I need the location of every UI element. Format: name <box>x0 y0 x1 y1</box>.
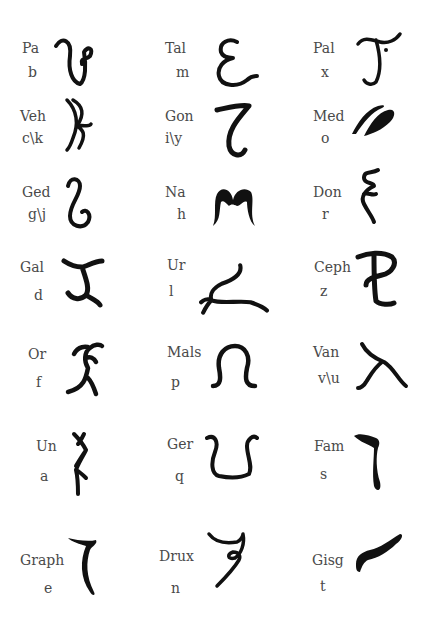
un-glyph-icon <box>64 428 124 498</box>
letter-sound: x <box>321 64 329 80</box>
letter-sound: d <box>34 287 43 303</box>
letter-sound: p <box>171 374 180 390</box>
gisg-glyph-icon <box>350 530 410 600</box>
fam-glyph-icon <box>346 430 406 500</box>
letter-ceph: Ceph z <box>286 255 429 345</box>
letter-sound: z <box>320 283 327 299</box>
letter-gisg: Gisg t <box>286 540 429 630</box>
letter-sound: a <box>40 468 48 484</box>
van-glyph-icon <box>350 336 410 406</box>
gal-glyph-icon <box>60 255 120 325</box>
letter-ur: Ur l <box>143 255 286 345</box>
letter-gal: Gal d <box>0 255 143 345</box>
letter-name: Van <box>313 344 339 360</box>
letter-sound: i\y <box>165 130 182 146</box>
letter-name: Un <box>36 438 57 454</box>
drux-glyph-icon <box>203 530 263 600</box>
letter-name: Veh <box>20 108 46 124</box>
ur-glyph-icon <box>197 257 257 327</box>
letter-name: Tal <box>165 40 186 56</box>
letter-sound: e <box>44 580 52 596</box>
ceph-glyph-icon <box>352 249 412 319</box>
letter-sound: n <box>171 580 180 596</box>
letter-sound: h <box>177 206 186 222</box>
letter-sound: f <box>36 374 41 390</box>
ged-glyph-icon <box>58 174 118 244</box>
don-glyph-icon <box>350 164 410 234</box>
letter-name: Pa <box>22 40 39 56</box>
letter-graph: Graph e <box>0 540 143 630</box>
graph-glyph-icon <box>64 536 124 606</box>
letter-name: Mals <box>167 344 201 360</box>
letter-sound: v\u <box>318 370 340 386</box>
na-glyph-icon <box>205 178 265 248</box>
letter-name: Ur <box>167 257 186 273</box>
letter-name: Na <box>165 184 186 200</box>
letter-name: Ger <box>167 436 193 452</box>
letter-name: Don <box>313 184 342 200</box>
letter-name: Pal <box>313 40 335 56</box>
letter-sound: q <box>175 468 184 484</box>
veh-glyph-icon <box>55 94 115 164</box>
letter-sound: s <box>320 466 327 482</box>
letter-sound: r <box>322 206 329 222</box>
letter-name: Med <box>313 108 345 124</box>
or-glyph-icon <box>62 338 122 408</box>
letter-name: Gon <box>165 108 194 124</box>
letter-un: Un a <box>0 430 143 520</box>
letter-mals: Mals p <box>143 340 286 430</box>
ger-glyph-icon <box>201 430 261 500</box>
letter-ger: Ger q <box>143 430 286 520</box>
mals-glyph-icon <box>205 340 265 410</box>
letter-gon: Gon i\y <box>143 100 286 190</box>
letter-name: Fam <box>314 438 344 454</box>
letter-fam: Fam s <box>286 430 429 520</box>
letter-or: Or f <box>0 340 143 430</box>
gon-glyph-icon <box>213 96 273 166</box>
letter-name: Graph <box>20 552 64 568</box>
letter-name: Gisg <box>312 552 344 568</box>
letter-name: Ged <box>22 184 50 200</box>
letter-name: Ceph <box>314 259 351 275</box>
letter-name: Drux <box>159 548 194 564</box>
letter-sound: g\j <box>28 206 46 222</box>
med-glyph-icon <box>348 90 408 160</box>
letter-name: Gal <box>20 259 44 275</box>
letter-drux: Drux n <box>143 540 286 630</box>
letter-sound: b <box>28 64 37 80</box>
letter-sound: o <box>321 130 329 146</box>
letter-name: Or <box>28 346 46 362</box>
letter-van: Van v\u <box>286 340 429 430</box>
letter-sound: t <box>320 578 326 594</box>
letter-sound: m <box>176 64 189 80</box>
letter-sound: c\k <box>22 130 43 146</box>
letter-sound: l <box>169 283 173 299</box>
